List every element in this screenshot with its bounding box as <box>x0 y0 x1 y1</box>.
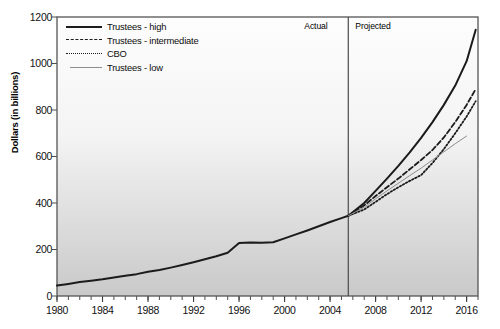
legend-line-sample-icon <box>64 35 102 45</box>
legend-line-sample-icon <box>64 22 102 32</box>
legend-item: Trustees - intermediate <box>64 34 254 48</box>
x-tick-label: 2000 <box>260 305 310 316</box>
actual-period-label: Actual <box>304 22 327 31</box>
x-tick-label: 1984 <box>78 305 128 316</box>
x-tick-label: 2008 <box>351 305 401 316</box>
x-tick-label: 2012 <box>396 305 446 316</box>
legend-label: CBO <box>107 49 127 58</box>
x-tick-label: 1988 <box>123 305 173 316</box>
projected-period-label: Projected <box>355 22 390 31</box>
chart-container: Dollars (in billions) 020040060080010001… <box>0 0 500 329</box>
legend-label: Trustees - low <box>107 63 163 72</box>
legend-line-sample-icon <box>64 63 102 73</box>
x-tick-label: 1992 <box>169 305 219 316</box>
x-tick-label: 2004 <box>305 305 355 316</box>
legend-line-sample-icon <box>64 49 102 59</box>
legend-label: Trustees - high <box>107 22 166 31</box>
x-tick-label: 2016 <box>442 305 492 316</box>
legend-item: Trustees - high <box>64 20 254 34</box>
chart-legend: Trustees - highTrustees - intermediateCB… <box>64 20 254 74</box>
legend-label: Trustees - intermediate <box>107 36 198 45</box>
x-tick-label: 1980 <box>32 305 82 316</box>
legend-item: CBO <box>64 47 254 61</box>
x-tick-label: 1996 <box>214 305 264 316</box>
legend-item: Trustees - low <box>64 61 254 75</box>
